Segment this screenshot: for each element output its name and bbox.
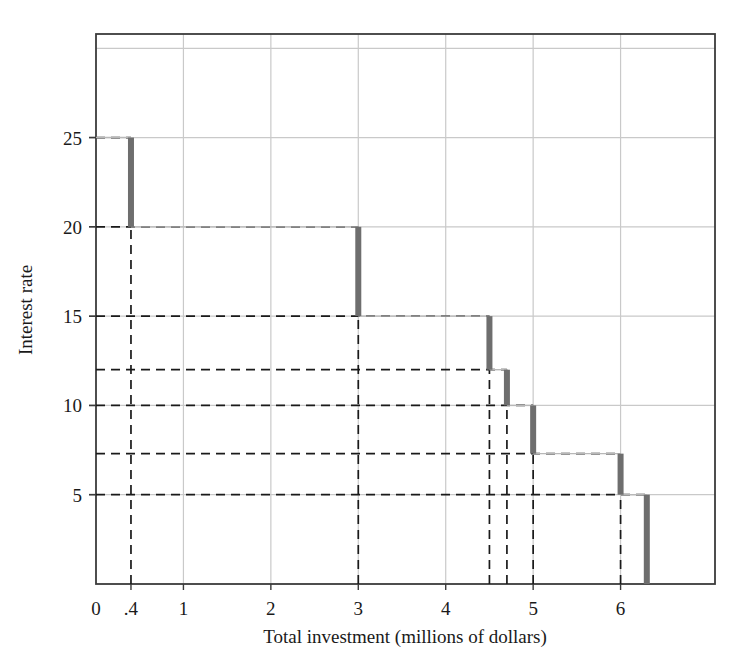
x-tick-label: 0 [91,598,101,619]
x-tick-label: 3 [354,598,364,619]
y-tick-label: 20 [63,217,82,238]
chart-canvas: 5101520250.4123456 Total investment (mil… [0,0,738,664]
investment-step-bar [644,495,650,584]
x-tick-label: .4 [124,598,139,619]
x-tick-label: 2 [266,598,276,619]
x-tick-label: 4 [441,598,451,619]
x-axis-title: Total investment (millions of dollars) [263,626,547,648]
investment-step-bar [618,454,624,495]
y-tick-label: 15 [63,306,82,327]
y-tick-label: 25 [63,128,82,149]
investment-step-bar [530,405,536,453]
investment-step-bar [486,316,492,370]
investment-step-bar [504,370,510,406]
investment-demand-figure: 5101520250.4123456 Total investment (mil… [0,0,738,664]
y-tick-label: 5 [73,485,83,506]
investment-step-bar [355,227,361,316]
investment-step-bar [128,138,134,227]
y-axis-title: Interest rate [15,265,36,355]
figure-background [0,0,738,664]
x-tick-label: 1 [179,598,189,619]
y-tick-label: 10 [63,395,82,416]
x-tick-label: 5 [528,598,538,619]
x-tick-label: 6 [616,598,626,619]
